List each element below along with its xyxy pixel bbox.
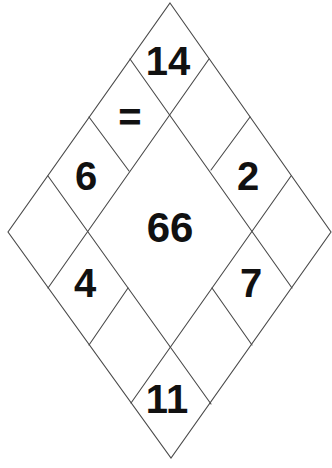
cell-upper-left: 6 (75, 154, 97, 198)
cell-center: 66 (147, 204, 194, 251)
cell-bottom: 11 (146, 377, 188, 421)
number-diamond-puzzle: 14 = 6 2 66 4 7 11 (0, 0, 332, 468)
cell-lower-left: 4 (74, 261, 97, 305)
cell-top: 14 (146, 39, 191, 83)
grid-line-dr-1 (130, 59, 292, 288)
cell-equals-sign: = (118, 95, 141, 139)
cell-lower-right: 7 (240, 261, 262, 305)
cell-upper-right: 2 (237, 154, 259, 198)
grid-line-dl-1 (48, 59, 209, 288)
